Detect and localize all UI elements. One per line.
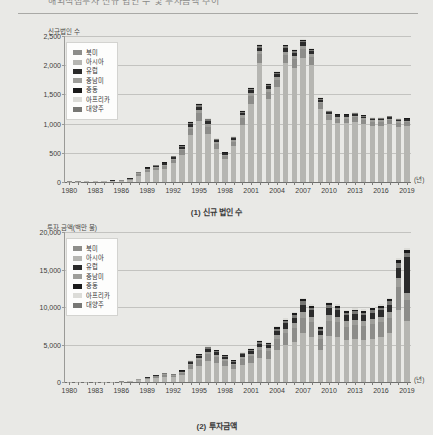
x-tick-mark [329,182,330,185]
x-tick-mark [130,382,131,385]
x-tick-mark [303,182,304,185]
x-tick-mark [87,382,88,385]
bar-slot [333,232,342,382]
x-tick-mark [329,382,330,385]
bar-slot [359,36,368,182]
x-tick-mark [338,182,339,185]
stacked-bar [222,355,227,382]
x-tick-mark [277,382,278,385]
stacked-bar [404,248,409,382]
bar-slot [238,36,247,182]
bar-segment [205,361,210,382]
x-tick-mark [234,382,235,385]
stacked-bar [274,71,279,182]
bar-slot [281,232,290,382]
bar-segment [370,126,375,182]
stacked-bar [162,373,167,382]
stacked-bar [145,167,150,182]
legend-item-label: 북미 [86,246,98,252]
bar-segment [404,257,409,293]
bar-segment [404,321,409,382]
chart2-caption: (2) 투자금액 [0,420,433,431]
bar-slot [325,232,334,382]
bar-slot [143,232,152,382]
bar-segment [396,287,401,310]
x-axis-label: 2019 [399,387,415,394]
bar-segment [266,99,271,183]
legend-swatch-icon [73,88,82,93]
x-tick-mark [78,382,79,385]
y-axis-label: 15,000 [40,266,61,273]
bar-slot [325,36,334,182]
legend-swatch-icon [73,303,82,308]
x-tick-mark [294,182,295,185]
stacked-bar [240,110,245,182]
bar-slot [351,36,360,182]
chart1-x-unit: (년) [414,174,424,184]
stacked-bar [318,326,323,382]
legend-swatch-icon [73,107,82,112]
x-tick-mark [216,382,217,385]
x-tick-mark [268,382,269,385]
bar-segment [318,339,323,349]
legend-item-label: 아시아 [86,255,104,261]
bar-segment [188,135,193,182]
stacked-bar [335,114,340,182]
bar-slot [385,36,394,182]
legend-item-label: 아프리카 [86,97,110,103]
bar-segment [179,375,184,382]
x-tick-mark [268,182,269,185]
bar-segment [283,55,288,64]
bar-segment [257,358,262,382]
bar-slot [273,232,282,382]
x-tick-mark [130,182,131,185]
bar-segment [214,363,219,382]
bar-slot [290,232,299,382]
x-tick-mark [69,382,70,385]
bar-segment [344,340,349,382]
chart1-caption: (1) 신규 법인 수 [0,206,433,217]
bar-slot [221,232,230,382]
bar-slot [333,36,342,182]
bar-segment [370,339,375,382]
bar-segment [326,321,331,336]
bar-slot [290,36,299,182]
document-title: 해외직접투자 신규 법인 수 및 투자금액 추이 [48,0,388,6]
stacked-bar [335,304,340,382]
x-tick-mark [139,182,140,185]
legend-item-0: 북미 [73,48,110,57]
stacked-bar [171,156,176,183]
stacked-bar [153,165,158,182]
x-tick-mark [294,382,295,385]
bar-segment [283,345,288,382]
stacked-bar [361,309,366,382]
x-tick-mark [251,382,252,385]
x-tick-mark [208,382,209,385]
bar-segment [300,305,305,312]
x-tick-mark [398,182,399,185]
x-tick-mark [165,182,166,185]
bar-segment [292,68,297,182]
bar-slot [204,232,213,382]
legend-item-label: 중동 [86,87,98,93]
bar-slot [316,36,325,182]
x-tick-mark [364,382,365,385]
x-tick-mark [346,182,347,185]
bar-slot [160,232,169,382]
bar-segment [222,366,227,382]
bar-slot [204,36,213,182]
stacked-bar [352,112,357,182]
stacked-bar [231,136,236,182]
x-tick-mark [303,382,304,385]
bar-segment [387,318,392,334]
x-tick-mark [260,182,261,185]
x-tick-mark [147,382,148,385]
y-axis-label: 20,000 [40,229,61,236]
x-tick-mark [225,182,226,185]
x-tick-mark [407,382,408,385]
bar-segment [404,300,409,320]
bar-slot [186,36,195,182]
x-tick-mark [277,182,278,185]
bar-segment [145,172,150,182]
bar-segment [231,369,236,382]
